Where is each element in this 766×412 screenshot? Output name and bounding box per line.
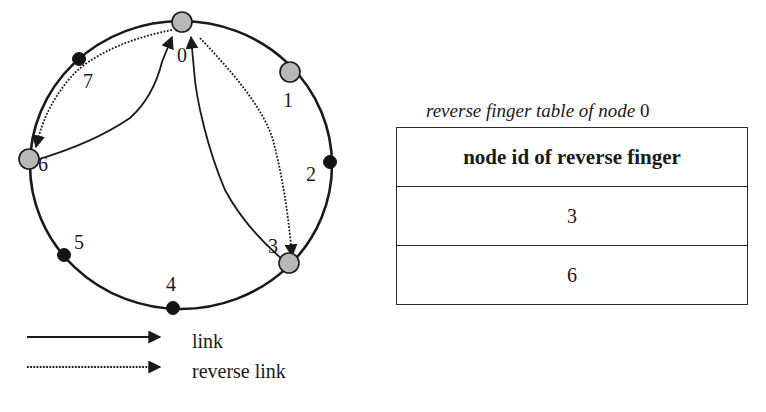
reverse-finger-table: node id of reverse finger 3 6 [396, 127, 748, 305]
inactive-node-dot [73, 53, 86, 66]
inactive-node-dot [324, 156, 337, 169]
chord-ring-diagram: 01234567 [0, 0, 380, 412]
table-caption-node: 0 [640, 100, 650, 121]
ring-node-4: 4 [166, 273, 180, 315]
node-label: 6 [38, 153, 48, 175]
active-node-dot [19, 149, 39, 169]
link-arrow-6-to-0 [36, 37, 172, 160]
table-cell-reverse-finger: 6 [397, 246, 748, 305]
ring-node-1: 1 [280, 62, 300, 111]
ring-node-0: 0 [172, 12, 192, 66]
ring-node-6: 6 [19, 149, 48, 175]
node-label: 4 [166, 273, 176, 295]
table-caption: reverse finger table of node 0 [426, 100, 650, 122]
node-label: 1 [283, 89, 293, 111]
active-node-dot [279, 253, 299, 273]
table-cell-reverse-finger: 3 [397, 187, 748, 246]
inactive-node-dot [58, 249, 71, 262]
table-row: 3 [397, 187, 748, 246]
active-node-dot [280, 62, 300, 82]
table-caption-text: reverse finger table of node [426, 100, 635, 121]
reverse-link-arrow-0-to-3 [200, 38, 292, 256]
table-row: 6 [397, 246, 748, 305]
legend-reverse-link-label: reverse link [192, 360, 286, 382]
inactive-node-dot [167, 302, 180, 315]
node-label: 7 [83, 70, 93, 92]
active-node-dot [172, 12, 192, 32]
nodes-layer: 01234567 [19, 12, 337, 315]
node-label: 5 [74, 231, 84, 253]
ring-node-5: 5 [58, 231, 85, 262]
legend-link-label: link [192, 330, 223, 352]
ring-node-3: 3 [268, 235, 299, 273]
node-label: 2 [306, 163, 316, 185]
link-arrow-3-to-0 [191, 37, 282, 259]
table-header-node-id: node id of reverse finger [397, 128, 748, 187]
node-label: 0 [177, 44, 187, 66]
node-label: 3 [268, 235, 278, 257]
table-header-row: node id of reverse finger [397, 128, 748, 187]
